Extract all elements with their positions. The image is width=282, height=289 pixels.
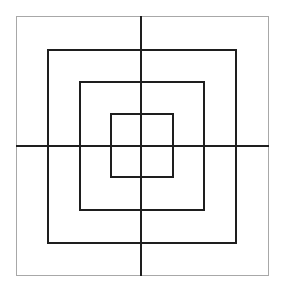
horizontal-axis-line [16,145,269,147]
diagram-canvas [0,0,282,289]
